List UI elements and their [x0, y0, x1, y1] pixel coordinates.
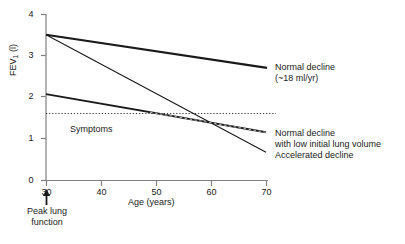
annotation-low-volume-line1: Normal decline: [275, 128, 381, 139]
annotation-normal-decline-rate: (~18 ml/yr): [275, 73, 335, 84]
annotation-accelerated-decline: Accelerated decline: [275, 150, 381, 161]
y-tick-label-1: 1: [24, 133, 38, 143]
x-tick-label-60: 60: [201, 187, 222, 197]
x-tick-label-40: 40: [91, 187, 112, 197]
y-tick-label-2: 2: [24, 91, 38, 101]
annotation-peak-lung-function-line2: function: [12, 217, 82, 228]
x-tick-label-50: 50: [146, 187, 167, 197]
y-axis-title: FEV1 (l): [8, 16, 19, 76]
annotation-symptoms: Symptoms: [70, 124, 113, 135]
series-normal-decline: [46, 35, 267, 68]
y-tick-label-0: 0: [24, 175, 38, 185]
x-tick-label-30: 30: [36, 187, 57, 197]
annotation-low-volume-line2: with low initial lung volume: [275, 139, 381, 150]
x-tick-label-70: 70: [256, 187, 277, 197]
annotation-peak-lung-function: Peak lung function: [12, 206, 82, 228]
y-axis-ticks: [41, 15, 46, 181]
annotation-peak-lung-function-line1: Peak lung: [12, 206, 82, 217]
y-axis-title-base: FEV: [8, 58, 18, 76]
y-tick-label-3: 3: [24, 50, 38, 60]
annotation-low-volume-group: Normal decline with low initial lung vol…: [275, 128, 381, 161]
annotation-normal-decline-line1: Normal decline: [275, 62, 335, 73]
fev1-decline-chart: 4 3 2 1 0 30 40 50 60 70 FEV1 (l) Age (y…: [0, 0, 405, 244]
y-tick-label-4: 4: [24, 9, 38, 19]
y-axis-title-subscript: 1: [12, 55, 19, 59]
annotation-normal-decline: Normal decline (~18 ml/yr): [275, 62, 335, 84]
x-axis-title: Age (years): [128, 197, 175, 207]
y-axis-title-unit: (l): [8, 44, 18, 55]
